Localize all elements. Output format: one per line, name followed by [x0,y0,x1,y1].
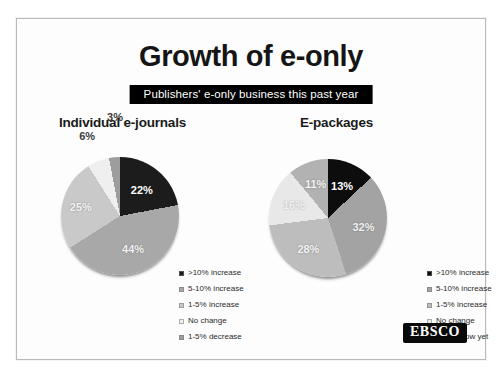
chart-title-right: E-packages [239,115,474,130]
legend-swatch-icon [427,271,432,276]
legend-item[interactable]: 5-10% increase [427,281,492,297]
legend-item[interactable]: No change [179,313,244,329]
legend-swatch-icon [427,287,432,292]
pie-slices-right [269,159,387,277]
chart-title-left: Individual e-journals [17,115,252,130]
legend-item[interactable]: >10% increase [427,265,492,281]
pie-slice-label: 44% [122,243,144,255]
chart-panel-individual-ejournals: Individual e-journals 22%44%25%6%3% >10%… [17,115,252,345]
legend-label: 1-5% decrease [188,333,242,341]
legend-swatch-icon [427,303,432,308]
legend-item[interactable]: 1-5% increase [179,297,244,313]
legend-label: >10% increase [436,269,489,277]
legend-label: 1-5% increase [436,301,487,309]
pie-slice-label: 6% [79,130,95,142]
legend-label: 5-10% increase [188,285,244,293]
pie-slice-label: 11% [305,178,326,190]
legend-item[interactable]: 5-10% increase [179,281,244,297]
pie-slice-label: 28% [297,243,319,255]
legend-label: 5-10% increase [436,285,492,293]
pie-chart-left: 22%44%25%6%3% [61,157,179,275]
legend-swatch-icon [179,287,184,292]
legend-swatch-icon [179,303,184,308]
legend-swatch-icon [179,319,184,324]
subtitle-banner: Publishers' e-only business this past ye… [130,85,373,104]
pie-slice-label: 22% [131,184,153,196]
legend-label: >10% increase [188,269,241,277]
legend-left: >10% increase5-10% increase1-5% increase… [179,265,244,345]
pie-slice-label: 16% [283,199,305,211]
pie-chart-right: 13%32%28%16%11% [269,159,387,277]
pie-slice-label: 3% [107,111,123,123]
legend-swatch-icon [179,335,184,340]
ebsco-logo: EBSCO [403,323,467,343]
slide-frame: Growth of e-only Publishers' e-only busi… [16,18,486,360]
chart-panel-epackages: E-packages 13%32%28%16%11% >10% increase… [239,115,474,345]
pie-slice-label: 32% [352,221,374,233]
legend-item[interactable]: 1-5% increase [427,297,492,313]
page-title: Growth of e-only [17,42,485,71]
legend-item[interactable]: >10% increase [179,265,244,281]
legend-label: No change [188,317,227,325]
legend-label: 1-5% increase [188,301,239,309]
pie-slice-label: 25% [70,201,92,213]
legend-swatch-icon [179,271,184,276]
pie-slice-label: 13% [331,180,353,192]
pie-slices-left [61,157,179,275]
legend-item[interactable]: 1-5% decrease [179,329,244,345]
